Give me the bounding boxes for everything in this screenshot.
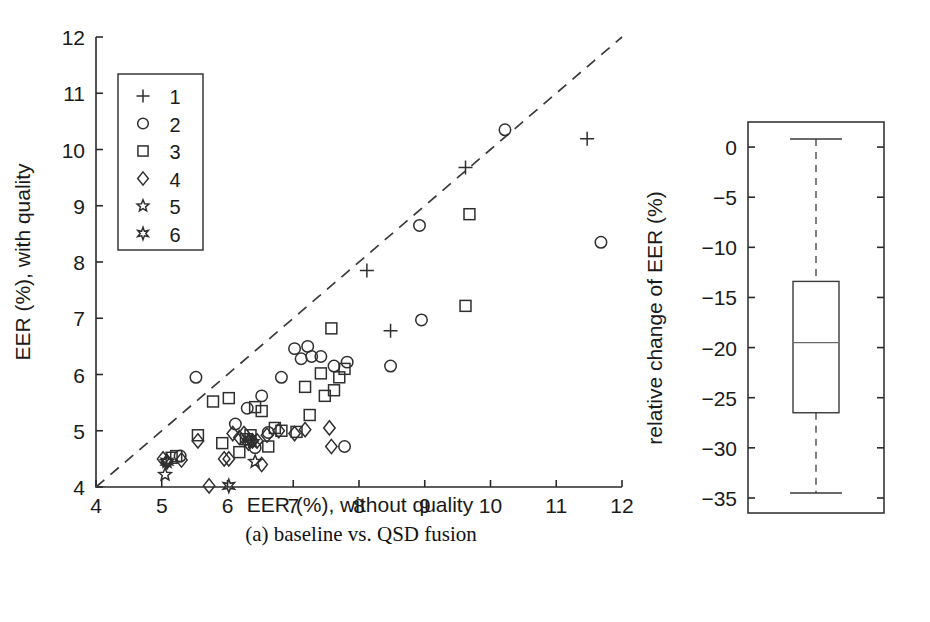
legend-label-6: 6 bbox=[169, 224, 180, 246]
marker-pentagram-5-0 bbox=[159, 468, 172, 480]
marker-circle-2-20 bbox=[595, 237, 606, 248]
marker-diamond-4-4 bbox=[203, 479, 214, 493]
marker-square-3-11 bbox=[263, 441, 274, 452]
marker-circle-2-16 bbox=[385, 360, 396, 371]
marker-square-3-4 bbox=[217, 438, 228, 449]
boxplot-y-tick-label--10: −10 bbox=[701, 236, 737, 259]
x-tick-label-12: 12 bbox=[610, 494, 633, 517]
marker-square-3-5 bbox=[223, 393, 234, 404]
marker-circle-2-19 bbox=[499, 124, 510, 135]
marker-plus-1-1 bbox=[384, 324, 398, 338]
legend-label-1: 1 bbox=[169, 86, 180, 108]
marker-circle-2-5 bbox=[256, 390, 267, 401]
boxplot-y-tick-label--35: −35 bbox=[701, 487, 737, 510]
legend-box bbox=[118, 74, 203, 250]
scatter-points-group bbox=[157, 124, 606, 493]
y-tick-label-7: 7 bbox=[73, 307, 85, 330]
marker-circle-2-14 bbox=[339, 441, 350, 452]
marker-pentagram-5-4 bbox=[249, 455, 262, 467]
scatter-svg: 456789101112456789101112 123456 EER (%),… bbox=[0, 0, 640, 520]
y-tick-label-6: 6 bbox=[73, 364, 85, 387]
marker-square-3-23 bbox=[460, 300, 471, 311]
marker-diamond-4-19 bbox=[326, 439, 337, 453]
marker-hexagram-6-1 bbox=[223, 479, 235, 492]
legend-label-2: 2 bbox=[169, 114, 180, 136]
boxplot-y-tick-label-0: 0 bbox=[725, 136, 737, 159]
marker-square-3-15 bbox=[300, 381, 311, 392]
marker-plus-1-3 bbox=[580, 132, 594, 146]
boxplot-y-tick-label--25: −25 bbox=[701, 387, 737, 410]
marker-plus-1-0 bbox=[360, 263, 374, 277]
marker-circle-2-1 bbox=[190, 372, 201, 383]
series-4 bbox=[157, 421, 337, 493]
legend-label-3: 3 bbox=[169, 141, 180, 163]
y-axis-title: EER (%), with quality bbox=[11, 163, 34, 361]
marker-circle-2-18 bbox=[416, 314, 427, 325]
y-tick-label-8: 8 bbox=[73, 251, 85, 274]
x-axis-title: EER (%), without quality bbox=[247, 493, 474, 516]
marker-square-3-6 bbox=[234, 447, 245, 458]
boxplot-box-group bbox=[790, 139, 842, 493]
y-tick-label-4: 4 bbox=[73, 476, 85, 499]
marker-circle-2-7 bbox=[276, 372, 287, 383]
marker-square-3-10 bbox=[256, 406, 267, 417]
legend-label-4: 4 bbox=[169, 169, 180, 191]
boxplot-y-tick-label--5: −5 bbox=[713, 186, 737, 209]
x-tick-label-5: 5 bbox=[156, 494, 168, 517]
series-1 bbox=[360, 132, 594, 338]
y-tick-label-10: 10 bbox=[62, 139, 85, 162]
panel-b-boxplot: 0−5−10−15−20−25−30−35 relative change of… bbox=[640, 0, 930, 622]
marker-square-3-17 bbox=[315, 368, 326, 379]
marker-square-3-3 bbox=[208, 396, 219, 407]
marker-circle-2-17 bbox=[414, 220, 425, 231]
marker-diamond-4-5 bbox=[219, 452, 230, 466]
marker-square-3-19 bbox=[326, 323, 337, 334]
marker-diamond-4-18 bbox=[324, 421, 335, 435]
y-tick-label-11: 11 bbox=[63, 82, 85, 105]
marker-square-3-24 bbox=[464, 209, 475, 220]
x-tick-label-11: 11 bbox=[545, 494, 567, 517]
x-tick-label-10: 10 bbox=[479, 494, 502, 517]
series-2 bbox=[174, 124, 606, 462]
marker-diamond-4-6 bbox=[223, 452, 234, 466]
marker-circle-2-15 bbox=[341, 356, 352, 367]
marker-circle-2-13 bbox=[328, 360, 339, 371]
boxplot-y-tick-label--30: −30 bbox=[701, 437, 737, 460]
series-3 bbox=[166, 209, 475, 463]
marker-square-3-16 bbox=[304, 410, 315, 421]
boxplot-y-axis-title: relative change of EER (%) bbox=[643, 191, 666, 444]
scatter-legend: 123456 bbox=[118, 74, 203, 250]
legend-label-5: 5 bbox=[169, 196, 180, 218]
marker-plus-1-2 bbox=[459, 161, 473, 175]
x-tick-label-6: 6 bbox=[222, 494, 234, 517]
y-tick-label-5: 5 bbox=[73, 420, 85, 443]
box-iqr bbox=[793, 281, 839, 412]
y-tick-label-9: 9 bbox=[73, 195, 85, 218]
panel-a-scatter: 456789101112456789101112 123456 EER (%),… bbox=[0, 0, 640, 622]
boxplot-y-tick-label--15: −15 bbox=[701, 286, 737, 309]
figure-root: 456789101112456789101112 123456 EER (%),… bbox=[0, 0, 930, 622]
panel-a-caption: (a) baseline vs. QSD fusion bbox=[96, 520, 626, 548]
boxplot-y-tick-label--20: −20 bbox=[701, 337, 737, 360]
marker-circle-2-8 bbox=[289, 343, 300, 354]
boxplot-svg: 0−5−10−15−20−25−30−35 relative change of… bbox=[640, 0, 930, 530]
marker-diamond-4-17 bbox=[299, 422, 310, 436]
marker-circle-2-9 bbox=[295, 353, 306, 364]
x-tick-label-4: 4 bbox=[90, 494, 102, 517]
y-tick-label-12: 12 bbox=[62, 26, 85, 49]
